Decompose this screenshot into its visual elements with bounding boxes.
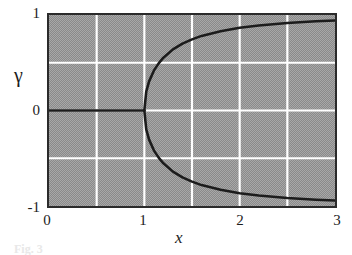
- x-axis-label: x: [175, 229, 183, 246]
- plot-canvas: [49, 15, 335, 206]
- x-tick-label-0: 0: [32, 213, 62, 228]
- plot-area: [47, 13, 337, 208]
- x-tick-label-2: 2: [225, 213, 255, 228]
- y-axis-label: γ: [14, 65, 23, 85]
- x-tick-label-1: 1: [128, 213, 158, 228]
- figure-caption: Fig. 3: [14, 243, 43, 255]
- y-tick-label-0: 0: [6, 103, 40, 118]
- y-tick-label-1: 1: [6, 6, 40, 21]
- figure-container: 1 0 -1 γ 0 1 2 3 x Fig. 3: [0, 0, 352, 255]
- x-tick-label-3: 3: [322, 213, 352, 228]
